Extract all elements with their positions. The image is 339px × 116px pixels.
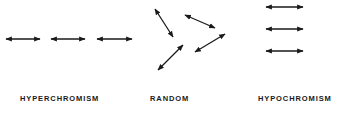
double-arrow-icon <box>185 15 215 28</box>
random-arrows <box>155 9 225 70</box>
double-arrow-icon <box>155 9 173 37</box>
hypochromism-label: HYPOCHROMISM <box>258 94 332 103</box>
double-arrow-icon <box>195 34 225 52</box>
double-arrow-icon <box>158 45 183 70</box>
random-label: RANDOM <box>150 94 189 103</box>
hypochromism-arrows <box>266 7 303 51</box>
hyperchromism-label: HYPERCHROMISM <box>20 94 99 103</box>
